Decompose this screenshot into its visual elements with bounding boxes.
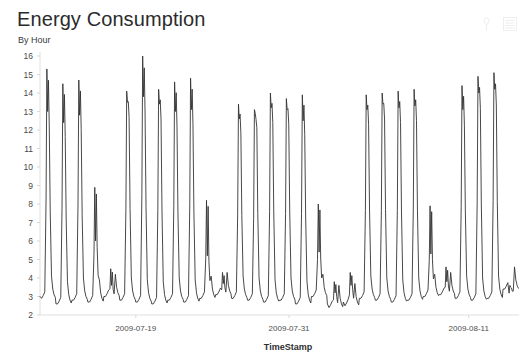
y-tick-label: 12 [24, 125, 34, 135]
series-group [40, 56, 518, 308]
y-tick-label: 9 [28, 181, 33, 191]
energy-consumption-chart-panel: Energy Consumption By Hour 2345678910111… [0, 0, 531, 363]
chart-plot-area: 2345678910111213141516 2009-07-192009-07… [0, 0, 531, 363]
y-tick-label: 4 [28, 273, 33, 283]
y-tick-label: 10 [24, 162, 34, 172]
x-axis-title: TimeStamp [264, 342, 313, 352]
y-tick-label: 3 [28, 292, 33, 302]
x-tick-label: 2009-07-19 [115, 324, 156, 333]
y-tick-label: 11 [24, 144, 33, 154]
y-tick-label: 15 [24, 70, 34, 80]
series-line [40, 56, 518, 308]
y-tick-label: 13 [24, 107, 34, 117]
x-tick-label: 2009-07-31 [269, 324, 310, 333]
y-tick-label: 2 [28, 310, 33, 320]
y-tick-label: 8 [28, 199, 33, 209]
y-tick-label: 16 [24, 51, 34, 61]
y-tick-label: 7 [28, 218, 33, 228]
x-tick-label: 2009-08-11 [449, 324, 490, 333]
y-axis: 2345678910111213141516 [24, 51, 519, 320]
y-tick-label: 6 [28, 236, 33, 246]
x-axis: 2009-07-192009-07-312009-08-11 [115, 315, 489, 333]
y-tick-label: 5 [28, 255, 33, 265]
y-tick-label: 14 [24, 88, 34, 98]
